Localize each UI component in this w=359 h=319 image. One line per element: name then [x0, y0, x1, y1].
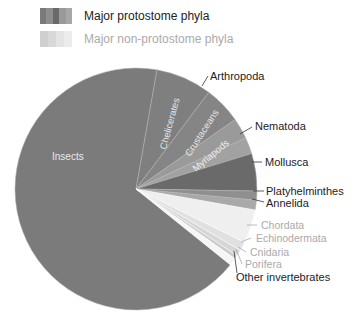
label-echinodermata: Echinodermata: [256, 232, 327, 244]
label-insects: Insects: [52, 151, 84, 162]
pie-slices: [15, 68, 257, 310]
label-nematoda: Nematoda: [255, 120, 307, 132]
label-arthropoda: Arthropoda: [210, 70, 265, 82]
pie-chart: Insects Chelicerates Crustaceans Myriapo…: [0, 0, 359, 319]
label-cnidaria: Cnidaria: [250, 246, 289, 258]
label-mollusca: Mollusca: [265, 156, 309, 168]
label-platyhelminthes: Platyhelminthes: [266, 185, 344, 197]
label-annelida: Annelida: [266, 197, 310, 209]
label-chordata: Chordata: [261, 219, 304, 231]
label-other-invertebrates: Other invertebrates: [236, 271, 331, 283]
label-porifera: Porifera: [245, 258, 282, 270]
